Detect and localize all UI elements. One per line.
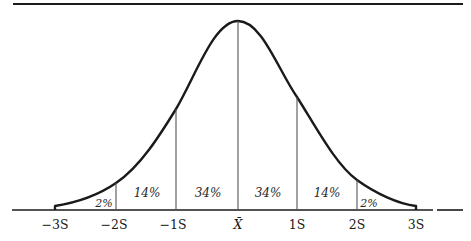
region-label: 34% xyxy=(255,186,282,200)
axis-label: X̄ xyxy=(233,217,244,232)
axis-label: −1S xyxy=(160,217,187,232)
region-label: 14% xyxy=(134,186,161,200)
axis-label: 3S xyxy=(408,217,425,232)
normal-distribution-diagram: 2% 14% 34% 34% 14% 2% −3S −2S −1S X̄ 1S … xyxy=(0,0,471,241)
axis-label: −3S xyxy=(42,217,69,232)
region-label: 2% xyxy=(359,197,377,210)
axis-label: 1S xyxy=(289,217,306,232)
region-label: 34% xyxy=(195,186,222,200)
axis-label: 2S xyxy=(349,217,366,232)
bell-curve xyxy=(55,21,416,210)
axis-label: −2S xyxy=(101,217,128,232)
region-label: 2% xyxy=(94,197,112,210)
region-label: 14% xyxy=(314,186,341,200)
